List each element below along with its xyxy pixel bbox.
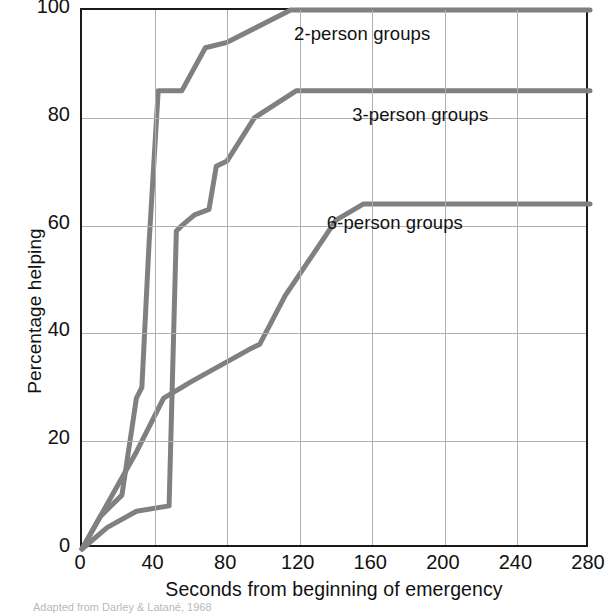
y-tick-label: 80 — [0, 103, 70, 126]
x-tick-label: 160 — [340, 551, 400, 574]
x-gridline — [300, 10, 301, 545]
x-gridline — [517, 10, 518, 545]
x-tick-label: 120 — [268, 551, 328, 574]
y-tick-label: 40 — [0, 318, 70, 341]
x-tick-label: 200 — [413, 551, 473, 574]
y-tick-label: 60 — [0, 211, 70, 234]
plot-area — [80, 8, 588, 547]
x-gridline — [227, 10, 228, 545]
y-tick-label: 0 — [0, 534, 70, 557]
series-line-3 — [82, 204, 590, 549]
y-gridline — [82, 118, 586, 119]
series-label-3: 6-person groups — [327, 212, 463, 234]
y-gridline — [82, 333, 586, 334]
x-gridline — [155, 10, 156, 545]
y-tick-label: 20 — [0, 426, 70, 449]
x-gridline — [372, 10, 373, 545]
series-lines-group — [82, 10, 590, 549]
source-caption: Adapted from Darley & Latané, 1968 — [33, 601, 212, 613]
x-tick-label: 40 — [123, 551, 183, 574]
x-axis-title: Seconds from beginning of emergency — [80, 578, 588, 601]
x-tick-label: 80 — [195, 551, 255, 574]
x-tick-label: 240 — [485, 551, 545, 574]
chart-figure: Percentage helping Seconds from beginnin… — [0, 0, 605, 614]
series-line-2 — [82, 91, 590, 549]
y-gridline — [82, 441, 586, 442]
series-label-2: 3-person groups — [352, 104, 488, 126]
y-tick-label: 100 — [0, 0, 70, 18]
x-gridline — [445, 10, 446, 545]
series-label-1: 2-person groups — [294, 23, 430, 45]
x-tick-label: 280 — [558, 551, 605, 574]
